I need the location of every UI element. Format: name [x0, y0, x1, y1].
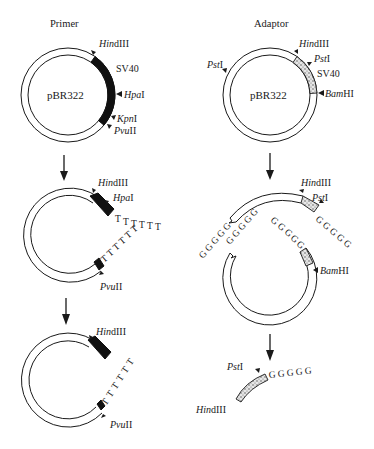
primer-final-step3: HindIII PvuII T T T T T T	[21, 326, 136, 430]
pvuii-label: PvuII	[113, 125, 136, 136]
pvuii-marker-icon	[107, 124, 112, 129]
pbr322-label: pBR322	[47, 89, 84, 101]
hindiii-label: HindIII	[98, 38, 129, 49]
psti-label: PstI	[311, 192, 328, 203]
pvuii-label: PvuII	[99, 281, 122, 292]
svg-text:G: G	[277, 368, 285, 379]
bamhi-label: BamHI	[320, 265, 349, 276]
arrow-down-icon	[62, 298, 70, 325]
svg-text:G: G	[268, 369, 276, 380]
svg-text:T: T	[139, 220, 145, 230]
oligo-dg-tail: G G G G G	[268, 365, 312, 380]
svg-text:G: G	[304, 365, 312, 376]
arrow-down-icon	[60, 155, 68, 181]
primer-title: Primer	[50, 18, 79, 29]
cdna-cloning-diagram: Primer Adaptor pBR322 SV40 HindIII HpaI …	[0, 0, 374, 449]
svg-text:T: T	[114, 372, 126, 383]
adaptor-fragment-step3: PstI HindIII G G G G G	[195, 361, 312, 415]
svg-text:T: T	[124, 356, 136, 367]
sv40-fragment-solid	[90, 193, 114, 216]
pvuii-label: PvuII	[109, 419, 132, 430]
psti-label: PstI	[206, 59, 223, 70]
svg-text:T: T	[123, 217, 129, 227]
svg-text:T: T	[155, 222, 161, 232]
oligo-dg-tail-middle: G G G G G	[269, 215, 307, 251]
svg-text:T: T	[115, 214, 121, 224]
hindiii-marker-icon	[299, 189, 304, 193]
svg-text:T: T	[119, 364, 131, 375]
adaptor-plasmid-step1: pBR322 SV40 PstI HindIII PstI BamHI	[206, 38, 354, 142]
svg-text:G: G	[295, 366, 303, 377]
hindiii-label: HindIII	[97, 177, 128, 188]
psti-marker-icon	[307, 62, 312, 66]
oligo-dt-tail: T T T T T T	[99, 356, 136, 407]
psti-label: PstI	[226, 361, 243, 372]
sv40-label: SV40	[116, 63, 139, 74]
lower-ring-inner	[230, 252, 308, 315]
primer-outer-strand	[21, 333, 102, 427]
pbr322-label: pBR322	[250, 89, 287, 101]
arrow-down-icon	[266, 334, 274, 361]
bamhi-label: BamHI	[325, 88, 354, 99]
hindiii-label: HindIII	[195, 404, 226, 415]
hpai-label: HpaI	[123, 89, 145, 100]
hindiii-marker-icon	[92, 188, 96, 193]
sv40-insert-solid	[91, 57, 115, 126]
lower-ring-outer	[223, 248, 317, 325]
kpni-label: KpnI	[116, 113, 137, 124]
upper-fragment-outer	[230, 193, 303, 218]
primer-linear-step2: HindIII HpaI PvuII T T T T T T T T T T T…	[24, 177, 161, 292]
hindiii-label: HindIII	[95, 326, 126, 337]
psti-marker-icon	[255, 368, 260, 373]
hindiii-marker-icon	[294, 49, 298, 54]
svg-text:T: T	[109, 380, 121, 391]
linear-inner-strand	[31, 195, 95, 273]
oligo-dg-tail-right: G G G G G	[314, 214, 354, 250]
oligo-dt-tail-lower: T T T T T T	[99, 223, 140, 265]
sv40-fragment-solid	[88, 336, 111, 359]
sv40-remnant-stippled	[300, 248, 313, 266]
primer-inner-strand	[29, 341, 96, 419]
hpai-marker-icon	[116, 91, 122, 97]
primer-plasmid-step1: pBR322 SV40 HindIII HpaI KpnI PvuII	[21, 38, 145, 142]
pvuii-marker-icon	[101, 414, 106, 418]
hindiii-label: HindIII	[298, 38, 329, 49]
svg-text:T: T	[147, 221, 153, 231]
bamhi-marker-icon	[318, 90, 324, 96]
svg-text:T: T	[104, 388, 116, 399]
kpni-marker-icon	[111, 115, 116, 120]
adaptor-fragment-stippled	[236, 374, 268, 402]
arrow-down-icon	[266, 153, 274, 180]
adaptor-title: Adaptor	[254, 18, 289, 29]
upper-fragment-nick	[229, 218, 236, 223]
sv40-label: SV40	[317, 68, 340, 79]
psti-label: PstI	[313, 53, 330, 64]
adaptor-cut-step2: HindIII PstI BamHI G G G G G G G G G G G…	[197, 177, 354, 325]
hindiii-label: HindIII	[300, 177, 331, 188]
svg-text:G: G	[286, 367, 294, 378]
hpai-label: HpaI	[112, 192, 134, 203]
